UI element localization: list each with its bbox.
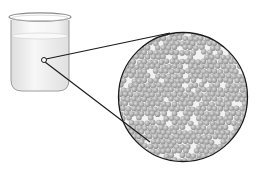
particle	[210, 158, 216, 164]
particle	[172, 111, 178, 117]
particle	[141, 96, 147, 102]
particle	[240, 49, 246, 55]
particle	[179, 50, 185, 56]
particle	[212, 77, 218, 83]
particle	[115, 96, 121, 102]
particle	[234, 106, 240, 112]
particle	[145, 54, 151, 60]
particle	[134, 158, 140, 164]
particle	[212, 106, 218, 112]
particle	[139, 63, 145, 69]
particle	[113, 54, 119, 60]
particle	[136, 106, 142, 112]
particle	[226, 158, 232, 164]
particle	[144, 120, 150, 126]
particle	[237, 35, 243, 41]
particle	[236, 54, 242, 60]
particle	[150, 101, 156, 107]
particle	[114, 69, 120, 75]
particle	[131, 31, 137, 37]
particle	[118, 54, 124, 60]
particle	[193, 45, 199, 51]
particle	[201, 49, 207, 55]
particle	[136, 40, 142, 46]
particle	[244, 40, 250, 46]
particle	[241, 148, 247, 154]
particle	[112, 138, 118, 144]
particle	[126, 115, 132, 121]
particle	[120, 50, 126, 56]
particle	[132, 144, 138, 150]
particle	[139, 54, 145, 60]
particle	[123, 158, 129, 164]
particle	[191, 77, 197, 83]
particle	[126, 31, 132, 37]
particle	[229, 152, 235, 158]
particle	[125, 144, 131, 150]
particle	[236, 26, 242, 32]
particle	[212, 144, 218, 150]
particle	[139, 26, 145, 32]
particle	[247, 45, 253, 51]
particle	[160, 54, 166, 60]
particle	[228, 78, 234, 84]
particle	[244, 144, 250, 150]
particle	[218, 77, 224, 83]
particle	[142, 77, 148, 83]
particle	[156, 26, 162, 32]
particle	[128, 27, 134, 33]
particle	[223, 125, 229, 131]
particle	[212, 96, 218, 102]
particle	[215, 35, 221, 41]
particle	[160, 73, 166, 79]
particle	[206, 87, 212, 93]
particle	[156, 92, 162, 98]
particle	[229, 96, 235, 102]
particle	[234, 115, 240, 121]
particle	[248, 83, 254, 89]
particle	[161, 26, 167, 32]
particle	[199, 64, 205, 70]
particle	[220, 92, 226, 98]
particle	[223, 40, 229, 46]
particle	[218, 134, 224, 140]
particle	[115, 31, 121, 37]
particle	[158, 106, 164, 112]
particle	[112, 35, 118, 41]
particle	[204, 63, 210, 69]
particle	[142, 31, 148, 37]
particle	[248, 138, 254, 144]
particle	[207, 106, 213, 112]
particle	[207, 49, 213, 55]
particle	[171, 27, 177, 33]
particle	[242, 44, 248, 50]
particle	[248, 120, 254, 126]
particle	[123, 138, 129, 144]
particle	[242, 55, 248, 61]
particle	[163, 40, 169, 46]
particle	[239, 31, 245, 37]
particle	[215, 157, 221, 163]
particle	[188, 101, 194, 107]
particle	[212, 115, 218, 121]
particle	[190, 50, 196, 56]
particle	[180, 153, 186, 159]
particle	[247, 35, 253, 41]
particle	[206, 96, 212, 102]
particle	[115, 134, 121, 140]
particle	[168, 87, 174, 93]
particle	[158, 134, 164, 140]
particle	[122, 46, 128, 52]
particle	[145, 26, 151, 32]
beaker	[9, 13, 71, 91]
particle	[175, 68, 181, 74]
particle	[247, 73, 253, 79]
particle	[161, 111, 167, 117]
particle	[156, 82, 162, 88]
particle	[123, 55, 129, 61]
particle	[133, 26, 139, 32]
particle	[204, 158, 210, 164]
particle	[226, 35, 232, 41]
particle	[125, 135, 131, 141]
particle	[168, 152, 174, 158]
